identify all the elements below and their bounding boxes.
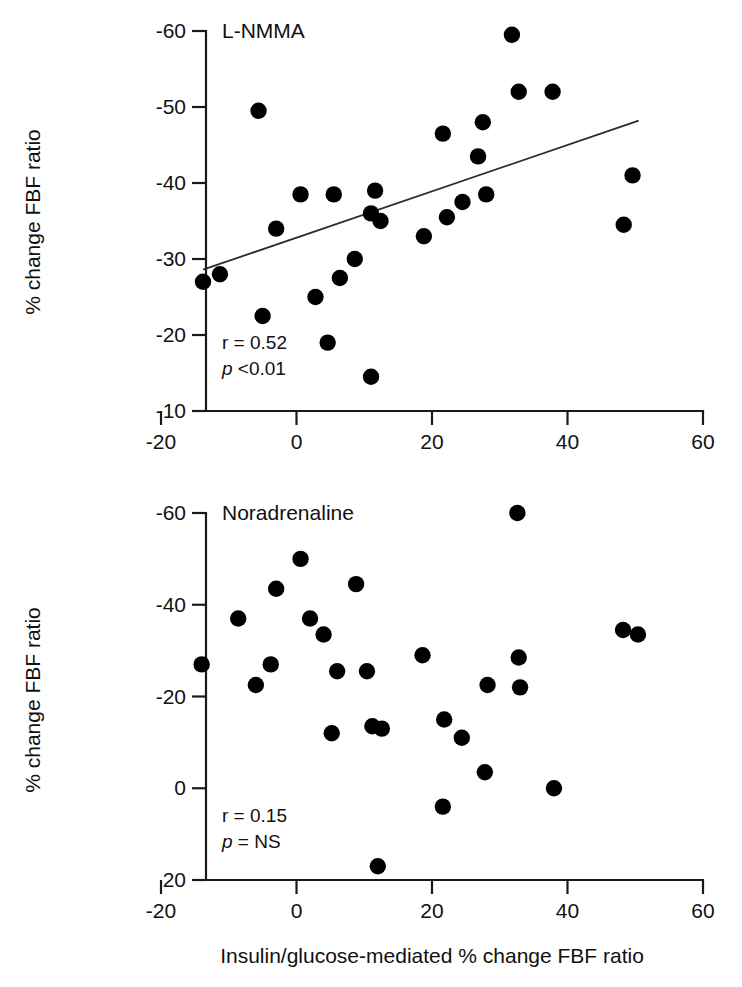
data-point: [302, 610, 318, 626]
data-point: [348, 576, 364, 592]
data-point: [512, 679, 528, 695]
pvalue-rest: <0.01: [233, 358, 286, 379]
data-point: [329, 663, 345, 679]
data-point: [454, 730, 470, 746]
data-point: [509, 505, 525, 521]
data-point: [374, 720, 390, 736]
data-point: [624, 167, 640, 183]
data-point: [416, 228, 432, 244]
x-tick-label: 0: [291, 430, 303, 453]
panel-title: Noradrenaline: [222, 501, 354, 524]
data-point: [347, 251, 363, 267]
data-point: [195, 274, 211, 290]
data-point: [435, 125, 451, 141]
pvalue-symbol: p: [221, 358, 233, 379]
y-axis-title-bottom: % change FBF ratio: [21, 607, 44, 793]
y-tick-label: -20: [156, 685, 186, 708]
data-point: [363, 369, 379, 385]
data-point: [504, 27, 520, 43]
y-tick-label: -40: [156, 593, 186, 616]
data-point: [630, 626, 646, 642]
data-point: [248, 677, 264, 693]
data-point: [307, 289, 323, 305]
y-tick-label: -60: [156, 19, 186, 42]
data-point: [324, 725, 340, 741]
data-point: [414, 647, 430, 663]
data-point: [479, 677, 495, 693]
figure-canvas: -60-50-40-30-20-10-200204060L-NMMAr = 0.…: [0, 0, 742, 987]
data-point: [372, 213, 388, 229]
data-point: [544, 84, 560, 100]
x-tick-label: 0: [291, 899, 303, 922]
x-tick-label: -20: [146, 899, 176, 922]
data-point: [292, 186, 308, 202]
pvalue-symbol: p: [221, 831, 233, 852]
data-point: [193, 656, 209, 672]
data-point: [263, 656, 279, 672]
y-tick-label: -20: [156, 323, 186, 346]
pvalue-rest: = NS: [233, 831, 281, 852]
data-point: [477, 764, 493, 780]
x-tick-label: 40: [556, 899, 579, 922]
x-tick-label: 20: [420, 899, 443, 922]
x-tick-label: 20: [420, 430, 443, 453]
data-point: [546, 780, 562, 796]
data-point: [367, 182, 383, 198]
data-point: [439, 209, 455, 225]
data-point: [436, 711, 452, 727]
data-point: [616, 217, 632, 233]
data-point: [326, 186, 342, 202]
y-tick-label: -40: [156, 171, 186, 194]
data-point: [268, 580, 284, 596]
correlation-annotation: r = 0.52: [222, 332, 287, 353]
data-point: [470, 148, 486, 164]
correlation-annotation: r = 0.15: [222, 805, 287, 826]
data-point: [359, 663, 375, 679]
data-point: [615, 622, 631, 638]
data-point: [292, 551, 308, 567]
y-tick-label: -30: [156, 247, 186, 270]
data-point: [454, 194, 470, 210]
y-axis-title-top: % change FBF ratio: [21, 129, 44, 315]
x-tick-label: 60: [691, 899, 714, 922]
data-point: [475, 114, 491, 130]
y-tick-label: -60: [156, 501, 186, 524]
regression-line: [203, 121, 639, 270]
pvalue-annotation: p <0.01: [221, 358, 286, 379]
data-point: [435, 798, 451, 814]
panel-l-nmma: -60-50-40-30-20-10-200204060L-NMMAr = 0.…: [146, 19, 715, 453]
data-point: [230, 610, 246, 626]
x-axis-title: Insulin/glucose-mediated % change FBF ra…: [220, 944, 644, 967]
x-tick-label: 40: [556, 430, 579, 453]
scatter-figure: -60-50-40-30-20-10-200204060L-NMMAr = 0.…: [0, 0, 742, 987]
data-point: [268, 220, 284, 236]
data-point: [478, 186, 494, 202]
data-point: [319, 334, 335, 350]
pvalue-annotation: p = NS: [221, 831, 281, 852]
x-tick-label: -20: [146, 430, 176, 453]
y-tick-label: -50: [156, 95, 186, 118]
data-point: [254, 308, 270, 324]
data-point: [332, 270, 348, 286]
data-point: [212, 266, 228, 282]
data-point: [511, 84, 527, 100]
y-tick-label: 0: [174, 776, 186, 799]
panel-title: L-NMMA: [222, 19, 305, 42]
data-point: [370, 858, 386, 874]
data-point: [250, 103, 266, 119]
panel-noradrenaline: -60-40-20020-200204060Noradrenaliner = 0…: [146, 501, 715, 922]
data-point: [511, 649, 527, 665]
y-tick-label: 20: [163, 868, 186, 891]
data-point: [315, 626, 331, 642]
x-tick-label: 60: [691, 430, 714, 453]
